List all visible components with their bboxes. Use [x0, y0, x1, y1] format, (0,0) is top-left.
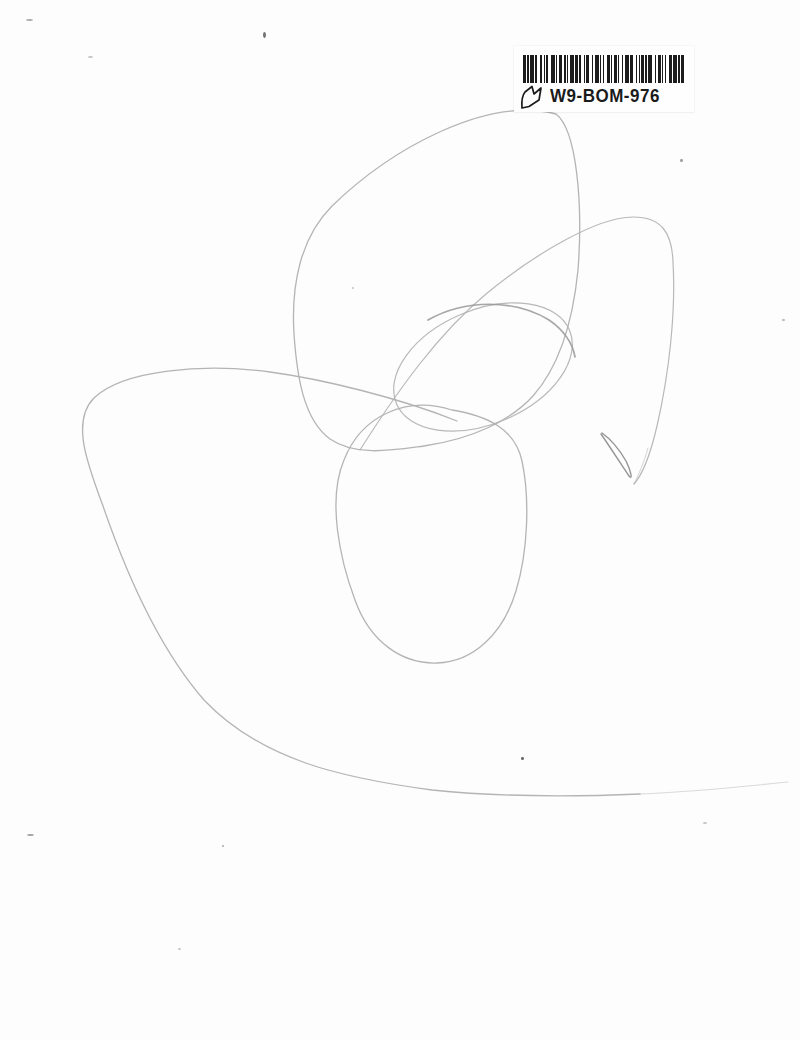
barcode-code-text: W9-BOM-976 — [550, 87, 660, 108]
paper-speck — [26, 19, 33, 21]
pencil-stroke — [601, 433, 631, 477]
open-book-icon — [518, 84, 545, 110]
paper-speck — [703, 822, 707, 824]
paper-speck — [88, 56, 93, 58]
paper-speck — [680, 159, 683, 162]
paper-speck — [521, 757, 524, 760]
barcode-bar — [681, 55, 684, 83]
scanned-page: W9-BOM-976 — [0, 0, 800, 1040]
pencil-stroke — [293, 110, 579, 450]
barcode-sticker: W9-BOM-976 — [514, 46, 694, 112]
paper-speck — [352, 287, 354, 289]
pencil-stroke — [634, 448, 648, 484]
paper-speck — [178, 948, 181, 950]
pencil-stroke — [360, 217, 674, 484]
pencil-stroke — [640, 782, 788, 794]
barcode — [523, 55, 684, 83]
paper-speck — [222, 845, 224, 847]
barcode-label-row: W9-BOM-976 — [518, 84, 690, 110]
paper-speck — [782, 319, 785, 321]
pencil-scribble-drawing — [0, 0, 800, 1040]
paper-speck — [27, 834, 34, 836]
paper-speck — [263, 32, 266, 38]
pencil-stroke — [336, 405, 527, 663]
